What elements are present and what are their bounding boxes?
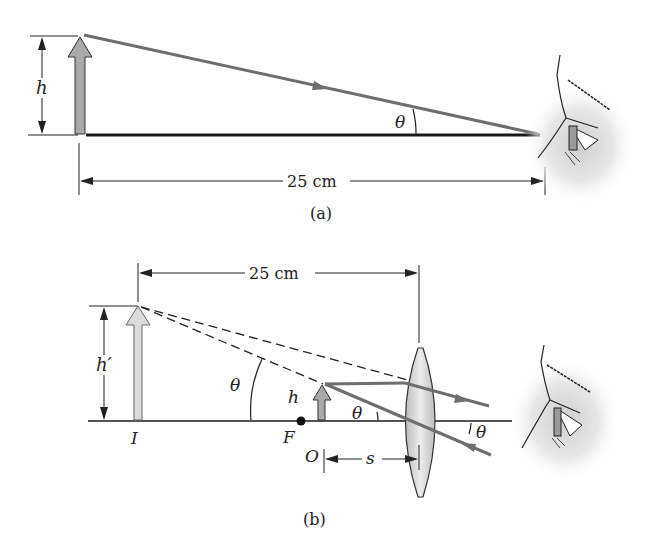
distance-label-b: 25 cm bbox=[249, 264, 299, 283]
image-arrow bbox=[126, 306, 150, 420]
eye-icon bbox=[510, 345, 620, 482]
figure-b: 25 cm h′ I θ F h bbox=[88, 263, 620, 529]
distance-label-a: 25 cm bbox=[287, 172, 337, 191]
angle-arc-a bbox=[413, 109, 416, 135]
focal-label: F bbox=[282, 427, 296, 447]
image-height-label: h′ bbox=[96, 354, 112, 375]
angle-label-exit: θ bbox=[476, 422, 486, 442]
angle-arc-exit bbox=[469, 423, 471, 434]
caption-a: (a) bbox=[310, 204, 332, 223]
converging-lens bbox=[406, 348, 436, 497]
eye-icon bbox=[525, 55, 635, 205]
virtual-rays bbox=[141, 307, 415, 384]
angle-label-a: θ bbox=[395, 112, 405, 132]
angle-arc-object bbox=[377, 412, 378, 420]
angle-arc-image bbox=[251, 359, 262, 420]
focal-point bbox=[297, 417, 306, 426]
object-label: O bbox=[305, 446, 319, 466]
caption-b: (b) bbox=[303, 510, 326, 529]
magnifier-diagram: h θ 25 cm bbox=[0, 0, 647, 551]
angle-label-object: θ bbox=[352, 403, 362, 423]
height-label-a: h bbox=[36, 77, 48, 98]
angle-label-image: θ bbox=[230, 375, 240, 395]
object-arrow-b bbox=[313, 385, 331, 420]
object-height-label: h bbox=[288, 387, 299, 407]
figure-a: h θ 25 cm bbox=[28, 35, 635, 223]
ray-a bbox=[84, 35, 538, 134]
object-distance-label: s bbox=[366, 448, 375, 468]
image-label: I bbox=[130, 428, 138, 448]
object-arrow-a bbox=[68, 37, 92, 134]
